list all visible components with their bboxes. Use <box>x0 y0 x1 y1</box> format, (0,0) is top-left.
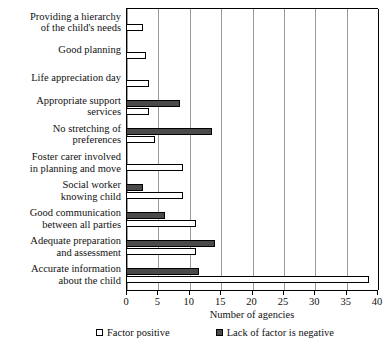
bar-negative <box>127 100 180 107</box>
category-label-line: Providing a hierarchy <box>30 11 121 23</box>
x-axis-tick-label: 35 <box>340 295 351 308</box>
bar-group <box>127 262 378 290</box>
legend-entry: Factor positive <box>96 327 170 338</box>
bar-negative <box>127 240 215 247</box>
category-axis: Providing a hierarchyof the child's need… <box>0 8 124 289</box>
category-label: Accurate informationabout the child <box>0 261 124 289</box>
legend-label: Lack of factor is negative <box>227 327 334 338</box>
category-label-line: Life appreciation day <box>31 72 121 84</box>
category-label: Foster carer involvedin planning and mov… <box>0 148 124 176</box>
category-label-line: of the child's needs <box>41 22 121 34</box>
x-axis-tick-labels: 0510152025303540 <box>126 295 378 309</box>
bar-positive <box>127 192 183 199</box>
bar-group <box>127 149 378 177</box>
category-label-line: Adequate preparation <box>30 235 121 247</box>
bar-positive <box>127 276 369 283</box>
category-label-line: Foster carer involved <box>32 151 121 163</box>
x-axis-tick-label: 5 <box>155 295 160 308</box>
x-axis-tick-label: 40 <box>372 295 383 308</box>
bar-positive <box>127 220 196 227</box>
category-label-line: No stretching of <box>53 123 121 135</box>
category-label-line: Good communication <box>30 207 121 219</box>
category-label: Adequate preparationand assessment <box>0 233 124 261</box>
category-label: No stretching ofpreferences <box>0 120 124 148</box>
bar-group <box>127 37 378 65</box>
category-label-line: services <box>87 106 121 118</box>
gridline <box>378 9 379 290</box>
bar-group <box>127 93 378 121</box>
bar-group <box>127 206 378 234</box>
category-label: Providing a hierarchyof the child's need… <box>0 8 124 36</box>
category-label: Life appreciation day <box>0 64 124 92</box>
legend-entry: Lack of factor is negative <box>216 327 334 338</box>
category-label-line: knowing child <box>61 191 121 203</box>
x-axis-tick-label: 25 <box>278 295 289 308</box>
bar-negative <box>127 268 199 275</box>
category-label: Good planning <box>0 36 124 64</box>
bar-positive <box>127 24 143 31</box>
bar-negative <box>127 212 165 219</box>
category-label-line: Accurate information <box>31 263 121 275</box>
x-axis-title: Number of agencies <box>126 309 378 320</box>
category-label-line: and assessment <box>57 247 121 259</box>
bar-series-container <box>127 9 378 290</box>
legend-label: Factor positive <box>107 327 170 338</box>
plot-area <box>126 8 378 291</box>
bar-group <box>127 234 378 262</box>
category-label: Social workerknowing child <box>0 177 124 205</box>
bar-chart: Providing a hierarchyof the child's need… <box>0 0 388 350</box>
bar-group <box>127 178 378 206</box>
bar-positive <box>127 52 146 59</box>
category-label-line: preferences <box>73 134 121 146</box>
legend-swatch-negative <box>216 329 223 336</box>
bar-positive <box>127 108 149 115</box>
bar-positive <box>127 136 155 143</box>
category-label-line: between all parties <box>42 219 121 231</box>
category-label-line: about the child <box>59 275 121 287</box>
category-label-line: in planning and move <box>30 163 121 175</box>
x-axis-tick-label: 30 <box>309 295 320 308</box>
bar-positive <box>127 80 149 87</box>
category-label: Appropriate supportservices <box>0 92 124 120</box>
category-label-line: Good planning <box>58 44 121 56</box>
category-label-line: Social worker <box>62 179 121 191</box>
chart-legend: Factor positiveLack of factor is negativ… <box>96 327 388 338</box>
bar-group <box>127 121 378 149</box>
x-axis-tick-label: 0 <box>123 295 128 308</box>
x-axis-tick-label: 15 <box>215 295 226 308</box>
category-label-line: Appropriate support <box>36 95 121 107</box>
x-axis-tick-label: 20 <box>246 295 257 308</box>
category-label: Good communicationbetween all parties <box>0 205 124 233</box>
bar-negative <box>127 184 143 191</box>
bar-negative <box>127 128 212 135</box>
bar-group <box>127 9 378 37</box>
legend-swatch-positive <box>96 329 103 336</box>
bar-positive <box>127 248 196 255</box>
bar-group <box>127 65 378 93</box>
x-axis-tick-label: 10 <box>184 295 195 308</box>
bar-positive <box>127 164 183 171</box>
